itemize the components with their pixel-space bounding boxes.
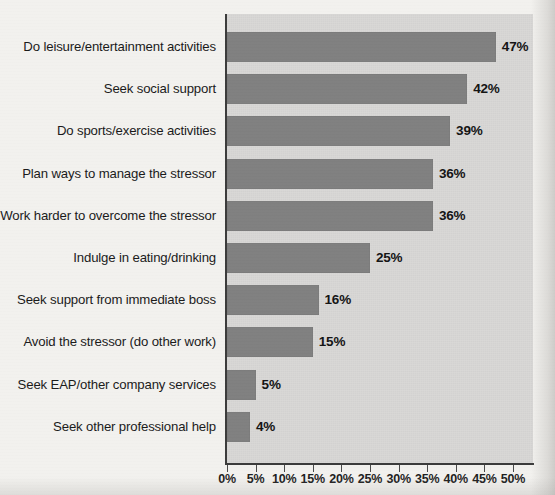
category-label: Seek other professional help (0, 412, 216, 442)
category-label: Avoid the stressor (do other work) (0, 327, 216, 357)
x-tick-40pct (456, 465, 457, 472)
bar-value-label: 42% (473, 74, 499, 104)
x-tick-35pct (427, 465, 428, 472)
x-tick-10pct (284, 465, 285, 472)
category-label: Seek EAP/other company services (0, 370, 216, 400)
x-tick-label: 20% (329, 472, 353, 486)
x-tick-label: 35% (415, 472, 439, 486)
bar (227, 159, 433, 189)
category-label: Do leisure/entertainment activities (0, 32, 216, 62)
x-tick-label: 45% (472, 472, 496, 486)
x-tick-0pct (227, 465, 228, 472)
bar (227, 32, 496, 62)
bar-value-label: 36% (439, 159, 465, 189)
bar (227, 116, 450, 146)
bar-value-label: 47% (502, 32, 528, 62)
category-label: Work harder to overcome the stressor (0, 201, 216, 231)
x-tick-label: 40% (444, 472, 468, 486)
bar-value-label: 36% (439, 201, 465, 231)
category-label: Seek social support (0, 74, 216, 104)
bar-value-label: 15% (319, 327, 345, 357)
x-tick-15pct (313, 465, 314, 472)
bar (227, 74, 467, 104)
bar-value-label: 16% (325, 285, 351, 315)
x-tick-label: 10% (272, 472, 296, 486)
bar (227, 327, 313, 357)
x-tick-label: 25% (358, 472, 382, 486)
bar (227, 285, 319, 315)
x-tick-label: 15% (301, 472, 325, 486)
x-tick-20pct (341, 465, 342, 472)
category-label: Indulge in eating/drinking (0, 243, 216, 273)
x-tick-45pct (484, 465, 485, 472)
x-tick-30pct (399, 465, 400, 472)
x-axis-line (225, 463, 534, 465)
bar (227, 370, 256, 400)
category-label: Seek support from immediate boss (0, 285, 216, 315)
bar-value-label: 25% (376, 243, 402, 273)
x-tick-label: 50% (501, 472, 525, 486)
bar (227, 201, 433, 231)
bar-value-label: 5% (262, 370, 281, 400)
bar (227, 243, 370, 273)
bar (227, 412, 250, 442)
x-tick-5pct (256, 465, 257, 472)
category-label: Do sports/exercise activities (0, 116, 216, 146)
x-tick-label: 30% (386, 472, 410, 486)
bar-value-label: 4% (256, 412, 275, 442)
bar-chart: 0%5%10%15%20%25%30%35%40%45%50% 47%42%39… (0, 0, 555, 495)
category-label: Plan ways to manage the stressor (0, 159, 216, 189)
x-tick-25pct (370, 465, 371, 472)
scan-shadow-right (531, 0, 555, 495)
x-tick-50pct (513, 465, 514, 472)
bar-value-label: 39% (456, 116, 482, 146)
x-tick-label: 5% (247, 472, 265, 486)
x-tick-label: 0% (218, 472, 236, 486)
